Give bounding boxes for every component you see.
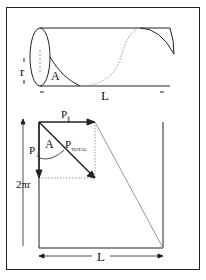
cylinder-length-label: L <box>101 89 109 102</box>
radius-label: r <box>20 65 24 78</box>
p-total-label: PTOTAL <box>65 139 87 152</box>
p-perp-label: P⊥ <box>29 145 40 158</box>
unrolled-angle-label: A <box>45 138 54 150</box>
diagram-graphic <box>0 0 206 280</box>
cylinder-angle-label: A <box>51 70 60 82</box>
unrolled-length-label: L <box>97 250 105 263</box>
circumference-label: 2πr <box>16 179 31 190</box>
p-parallel-label: P∥ <box>61 109 70 122</box>
unrolled-rect <box>21 119 163 258</box>
